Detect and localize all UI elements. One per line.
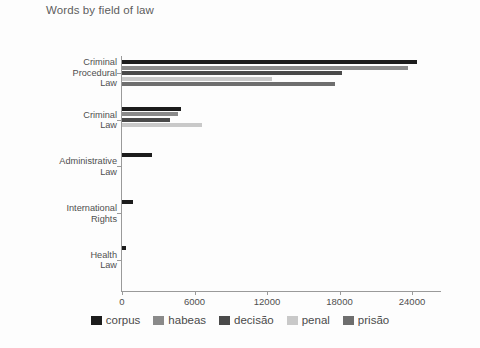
x-tick-mark — [267, 291, 268, 295]
x-tick-label: 12000 — [254, 296, 280, 307]
legend-swatch-icon — [153, 316, 164, 325]
bar-habeas — [122, 112, 178, 116]
x-tick-label: 0 — [119, 296, 124, 307]
plot-area — [122, 58, 412, 291]
legend-swatch-icon — [287, 316, 298, 325]
bar-corpus — [122, 200, 133, 204]
bar-decisão — [122, 118, 170, 122]
x-tick-label: 24000 — [399, 296, 425, 307]
legend-swatch-icon — [343, 316, 354, 325]
legend-item-prisão[interactable]: prisão — [343, 314, 389, 326]
legend-item-decisão[interactable]: decisão — [219, 314, 274, 326]
legend-item-penal[interactable]: penal — [287, 314, 330, 326]
y-tick-label: Health Law — [90, 249, 117, 270]
bar-penal — [122, 123, 202, 127]
y-tick-label: Criminal Law — [83, 109, 117, 130]
chart-container: Words by field of law 060001200018000240… — [0, 0, 480, 348]
x-tick-mark — [122, 291, 123, 295]
legend-label: decisão — [234, 314, 274, 326]
legend-item-corpus[interactable]: corpus — [91, 314, 141, 326]
legend-label: corpus — [106, 314, 141, 326]
bar-corpus — [122, 107, 181, 111]
legend-swatch-icon — [219, 316, 230, 325]
bar-corpus — [122, 246, 126, 250]
bar-corpus — [122, 60, 417, 64]
y-tick-label: Administrative Law — [59, 156, 117, 177]
x-tick-mark — [195, 291, 196, 295]
bar-prisão — [122, 82, 335, 86]
chart-legend: corpushabeasdecisãopenalprisão — [0, 314, 480, 326]
x-axis-line — [121, 291, 441, 292]
x-tick-mark — [412, 291, 413, 295]
chart-title: Words by field of law — [46, 4, 154, 16]
y-tick-label: International Rights — [66, 203, 117, 224]
x-tick-label: 18000 — [326, 296, 352, 307]
bar-corpus — [122, 153, 152, 157]
legend-label: prisão — [358, 314, 389, 326]
legend-label: penal — [302, 314, 330, 326]
x-tick-mark — [340, 291, 341, 295]
x-tick-label: 6000 — [184, 296, 205, 307]
bar-penal — [122, 77, 272, 81]
legend-label: habeas — [168, 314, 206, 326]
bar-decisão — [122, 71, 342, 75]
y-tick-label: Criminal Procedural Law — [73, 57, 117, 89]
legend-item-habeas[interactable]: habeas — [153, 314, 206, 326]
legend-swatch-icon — [91, 316, 102, 325]
bar-habeas — [122, 66, 408, 70]
